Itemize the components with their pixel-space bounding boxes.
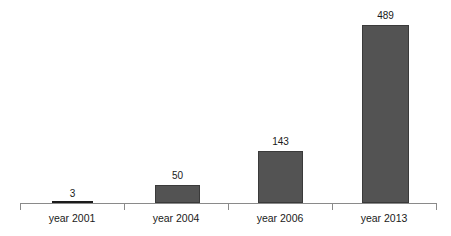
x-axis-tick-0	[20, 204, 21, 210]
x-axis-tick-1	[124, 204, 125, 210]
x-axis-category-label-year-2006: year 2006	[228, 212, 332, 225]
x-axis-tick-3	[332, 204, 333, 210]
bar-year-2004[interactable]	[155, 185, 200, 203]
bar-value-label-year-2013: 489	[362, 10, 409, 22]
bar-chart: 3 50 143 489 year 2001 year 2004 year 20…	[0, 0, 451, 236]
bar-value-label-year-2004: 50	[155, 170, 200, 182]
bar-value-label-year-2006: 143	[258, 136, 303, 148]
x-axis-category-label-year-2013: year 2013	[332, 212, 436, 225]
bar-year-2006[interactable]	[258, 151, 303, 203]
x-axis-tick-4	[436, 204, 437, 210]
x-axis-category-label-year-2001: year 2001	[20, 212, 124, 225]
plot-area: 3 50 143 489 year 2001 year 2004 year 20…	[0, 0, 451, 236]
x-axis-category-label-year-2004: year 2004	[124, 212, 228, 225]
bar-value-label-year-2001: 3	[52, 188, 93, 200]
x-axis-tick-2	[228, 204, 229, 210]
bar-year-2013[interactable]	[362, 25, 409, 203]
